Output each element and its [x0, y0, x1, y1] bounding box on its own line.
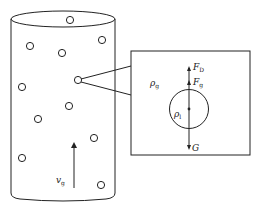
bubbles	[18, 16, 105, 188]
bubble-highlighted	[74, 76, 81, 83]
bubble	[26, 42, 33, 49]
bubble	[58, 49, 65, 56]
bubble	[90, 134, 97, 141]
bubble	[98, 36, 105, 43]
velocity-arrow: vg	[56, 145, 74, 188]
bubble	[18, 83, 25, 90]
velocity-label: vg	[56, 175, 65, 187]
bubble	[66, 16, 73, 23]
bubble	[18, 154, 25, 161]
gravity-force-label: G	[192, 143, 199, 153]
bubble	[97, 181, 104, 188]
column	[11, 11, 115, 201]
bubble	[65, 102, 72, 109]
bubble-force-diagram: vg ρg ρl FD Fg G	[0, 0, 255, 211]
inset-box	[131, 51, 250, 155]
column-bottom-curve	[11, 193, 115, 201]
bubble	[34, 115, 41, 122]
callout-lines	[81, 66, 131, 95]
column-top-ellipse	[11, 11, 115, 27]
